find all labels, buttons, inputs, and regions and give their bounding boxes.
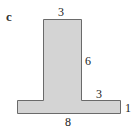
base-height-label: 1 [125, 102, 131, 114]
t-shape-outline [18, 20, 121, 114]
t-shape-figure [0, 0, 138, 131]
stem-height-label: 6 [85, 55, 91, 67]
stem-top-width-label: 3 [58, 6, 64, 18]
base-overhang-label: 3 [96, 88, 102, 100]
base-width-label: 8 [65, 116, 71, 128]
